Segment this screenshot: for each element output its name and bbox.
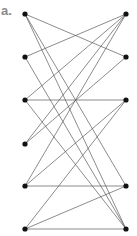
edge-R1-L4 (25, 14, 126, 144)
edges-layer (25, 14, 126, 229)
edge-R2-L4 (25, 57, 126, 144)
node-R6 (123, 226, 128, 231)
node-L6 (22, 226, 27, 231)
node-L2 (22, 54, 27, 59)
edge-R3-L5 (25, 100, 126, 186)
bipartite-graph (0, 0, 137, 236)
node-L1 (22, 11, 27, 16)
edge-L6-R5 (25, 186, 126, 229)
edge-L1-R6 (25, 14, 126, 229)
node-L3 (22, 97, 27, 102)
node-R1 (123, 11, 128, 16)
node-L5 (22, 183, 27, 188)
node-R5 (123, 183, 128, 188)
node-R3 (123, 97, 128, 102)
node-L4 (22, 141, 27, 146)
edge-R1-L3 (25, 14, 126, 100)
node-R2 (123, 54, 128, 59)
